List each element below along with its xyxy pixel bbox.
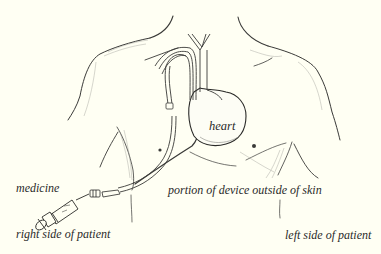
- neck-right-outline: [238, 17, 268, 46]
- catheter-hub: [90, 190, 120, 197]
- neck-left-outline: [150, 16, 173, 38]
- catheter-tube: [118, 47, 196, 192]
- heart-label: heart: [209, 120, 235, 133]
- nipple-right: [252, 144, 256, 148]
- chest-skin-line: [135, 130, 198, 184]
- shoulder-right-outline: [268, 46, 340, 140]
- heart-organ: [189, 88, 246, 146]
- armpit-right-outline: [294, 144, 318, 178]
- right-side-label: right side of patient: [16, 228, 110, 240]
- medicine-label: medicine: [16, 182, 59, 194]
- body-midline-left: [131, 195, 132, 222]
- nipple-left: [158, 148, 161, 151]
- left-side-label: left side of patient: [285, 229, 371, 241]
- pec-lower-left: [190, 152, 236, 166]
- catheter-cuff: [166, 103, 173, 109]
- torso-illustration: [0, 0, 381, 254]
- collarbone-right: [254, 58, 272, 66]
- diagram-canvas: heart medicine portion of device outside…: [0, 0, 381, 254]
- device-outside-skin-label: portion of device outside of skin: [168, 184, 322, 196]
- shoulder-left-outline: [68, 38, 150, 120]
- armpit-left-outline: [100, 132, 118, 167]
- pec-lower-right: [246, 143, 286, 160]
